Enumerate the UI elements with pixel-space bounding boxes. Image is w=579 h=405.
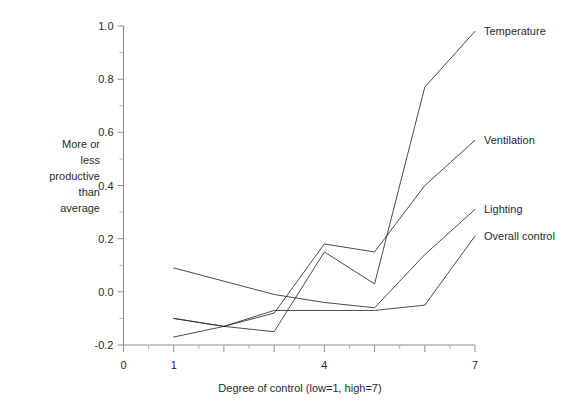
x-tick-label: 4	[321, 359, 327, 371]
y-tick-label: -0.2	[95, 339, 114, 351]
series-labels-group: TemperatureVentilationLightingOverall co…	[484, 25, 555, 242]
y-axis-title-line-3: productive	[49, 170, 100, 182]
chart-figure: 1.00.80.60.40.20.0-0.2 0147 TemperatureV…	[0, 0, 579, 405]
y-tick-label: 0.6	[98, 126, 113, 138]
y-tick-label: 1.0	[98, 20, 113, 32]
data-series-group	[174, 31, 475, 337]
x-tick-label: 1	[171, 359, 177, 371]
series-line-lighting	[174, 209, 475, 307]
y-axis-title-line-5: average	[60, 202, 100, 214]
y-tick-label: 0.8	[98, 73, 113, 85]
y-tick-label: 0.2	[98, 233, 113, 245]
x-tick-label: 7	[472, 359, 478, 371]
y-axis-title-line-4: than	[79, 186, 100, 198]
y-axis-title-line-1: More or	[62, 138, 100, 150]
series-label-temperature: Temperature	[484, 25, 546, 37]
x-axis-title: Degree of control (low=1, high=7)	[218, 382, 381, 394]
x-tick-label: 0	[120, 359, 126, 371]
series-label-lighting: Lighting	[484, 203, 523, 215]
x-axis-tick-labels: 0147	[120, 359, 478, 371]
y-tick-label: 0.4	[98, 180, 113, 192]
series-label-ventilation: Ventilation	[484, 134, 535, 146]
x-axis-ticks	[124, 345, 476, 352]
series-line-temperature	[174, 31, 475, 337]
y-axis-title: More or less productive than average	[49, 138, 100, 214]
y-axis-ticks	[118, 26, 124, 345]
y-axis-title-line-2: less	[80, 154, 100, 166]
series-label-overall-control: Overall control	[484, 230, 555, 242]
y-tick-label: 0.0	[98, 286, 113, 298]
line-chart-svg: 1.00.80.60.40.20.0-0.2 0147 TemperatureV…	[0, 0, 579, 405]
